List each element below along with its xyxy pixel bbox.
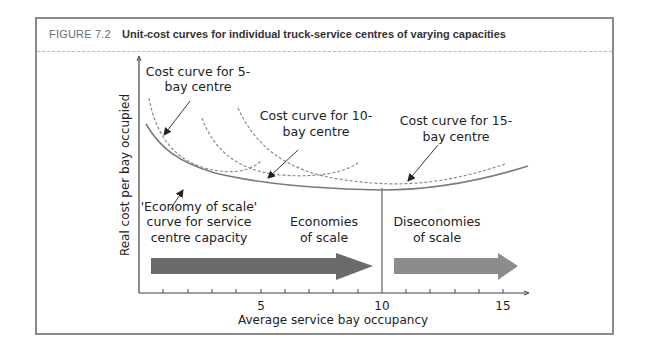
chart-area: 5 10 15 Average service bay occupancy Re… bbox=[0, 0, 648, 357]
svg-text:of scale: of scale bbox=[413, 230, 462, 245]
x-tick-label-5: 5 bbox=[257, 299, 265, 313]
y-axis-label: Real cost per bay occupied bbox=[118, 94, 132, 256]
label-diseconomies: Diseconomies of scale bbox=[393, 214, 480, 245]
x-axis-label: Average service bay occupancy bbox=[238, 313, 428, 327]
diseconomies-arrow bbox=[394, 253, 518, 280]
svg-text:Economies: Economies bbox=[290, 214, 358, 229]
label-economies: Economies of scale bbox=[290, 214, 358, 245]
x-tick-label-15: 15 bbox=[495, 299, 510, 313]
x-axis bbox=[139, 289, 529, 295]
pointer-10-bay bbox=[268, 150, 298, 178]
x-tick-label-10: 10 bbox=[374, 299, 389, 313]
svg-text:bay centre: bay centre bbox=[283, 124, 350, 139]
y-axis bbox=[137, 56, 141, 293]
label-10-bay: Cost curve for 10- bay centre bbox=[260, 108, 372, 139]
cost-curve-5-bay bbox=[149, 98, 262, 172]
label-5-bay: Cost curve for 5- bay centre bbox=[146, 64, 250, 94]
svg-text:of scale: of scale bbox=[300, 230, 349, 245]
svg-text:centre capacity: centre capacity bbox=[151, 230, 248, 245]
svg-text:Cost curve for 10-: Cost curve for 10- bbox=[260, 108, 372, 123]
svg-text:bay centre: bay centre bbox=[423, 129, 490, 144]
pointer-5-bay bbox=[164, 101, 190, 135]
svg-text:Cost curve for 15-: Cost curve for 15- bbox=[400, 113, 512, 128]
pointer-15-bay bbox=[408, 145, 438, 181]
svg-text:curve for service: curve for service bbox=[147, 214, 252, 229]
svg-text:Cost curve for 5-: Cost curve for 5- bbox=[146, 64, 250, 79]
svg-text:Diseconomies: Diseconomies bbox=[393, 214, 480, 229]
svg-text:bay centre: bay centre bbox=[165, 79, 232, 94]
label-15-bay: Cost curve for 15- bay centre bbox=[400, 113, 512, 144]
economies-arrow bbox=[151, 253, 373, 280]
label-economy-of-scale: 'Economy of scale' curve for service cen… bbox=[141, 199, 258, 245]
svg-text:'Economy of scale': 'Economy of scale' bbox=[141, 199, 258, 214]
